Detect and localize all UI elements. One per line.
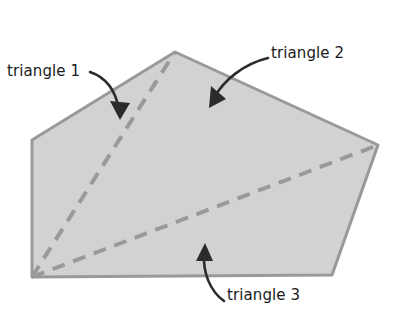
label-triangle-1: triangle 1 — [7, 63, 80, 80]
figure-root: triangle 1 triangle 2 triangle 3 — [0, 0, 414, 324]
label-triangle-2: triangle 2 — [271, 45, 344, 62]
label-triangle-3: triangle 3 — [227, 287, 300, 304]
polygon-diagram-canvas — [0, 0, 414, 324]
